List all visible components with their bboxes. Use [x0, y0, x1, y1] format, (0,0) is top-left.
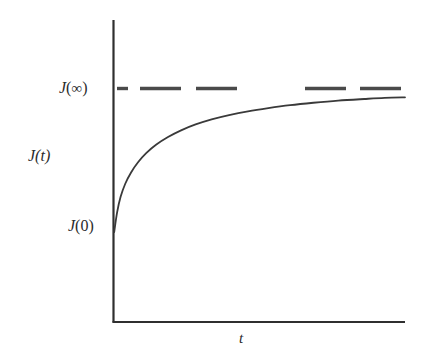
infinity-icon: ∞	[71, 80, 82, 96]
y-axis-argument: (t)	[35, 147, 50, 164]
initial-value-argument: (0)	[75, 217, 94, 234]
y-axis-title-label: J(t)	[28, 148, 50, 164]
x-axis-title-label: t	[239, 331, 243, 346]
x-axis-symbol: t	[239, 330, 243, 346]
asymptote-paren-close: )	[82, 79, 87, 96]
figure-background	[0, 0, 428, 358]
y-axis-asymptote-label: J(∞)	[59, 80, 87, 96]
y-axis-initial-value-label: J(0)	[68, 218, 94, 234]
creep-compliance-figure	[0, 0, 428, 358]
